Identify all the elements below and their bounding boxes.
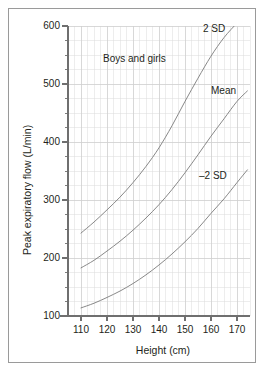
x-tick-label-130: 130 [120,325,146,335]
x-axis-title: Height (cm) [68,345,258,356]
x-tick-label-120: 120 [94,325,120,335]
x-tick-label-150: 150 [172,325,198,335]
x-tick-label-140: 140 [146,325,172,335]
y-axis-title: Peak expiratory flow (L/min) [22,125,33,255]
figure-container: 600 500 400 300 200 100 110 120 130 140 … [0,0,265,373]
x-tick-label-170: 170 [224,325,250,335]
annotation-upper-2sd: 2 SD [203,24,225,34]
annotation-mean: Mean [211,86,236,96]
y-tick-label-600: 600 [28,21,60,31]
annotation-lower-neg2sd: –2 SD [199,171,227,181]
y-tick-label-500: 500 [28,79,60,89]
annotation-boys-and-girls: Boys and girls [103,54,166,64]
y-tick-label-100: 100 [28,311,60,321]
x-tick-label-110: 110 [68,325,94,335]
x-tick-label-160: 160 [198,325,224,335]
